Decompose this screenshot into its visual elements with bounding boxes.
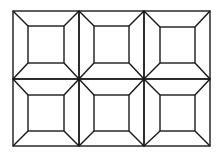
corner-bevel-line xyxy=(79,79,94,95)
corner-bevel-line xyxy=(64,79,79,95)
corner-bevel-line xyxy=(79,131,94,146)
cell-inner-square xyxy=(94,95,129,131)
corner-bevel-line xyxy=(144,131,160,146)
cell-inner-square xyxy=(160,27,195,63)
corner-bevel-line xyxy=(195,131,210,146)
corner-bevel-line xyxy=(64,63,79,79)
corner-bevel-line xyxy=(13,131,28,146)
corner-bevel-line xyxy=(64,11,79,26)
corner-bevel-line xyxy=(64,131,79,146)
cell-inner-square xyxy=(28,26,64,63)
corner-bevel-line xyxy=(195,63,210,79)
corner-bevel-line xyxy=(129,79,144,95)
corner-bevel-line xyxy=(129,131,144,146)
corner-bevel-line xyxy=(195,79,210,95)
corner-bevel-line xyxy=(144,79,160,95)
corner-bevel-line xyxy=(129,63,144,79)
corner-bevel-line xyxy=(13,79,28,95)
corner-bevel-line xyxy=(144,11,160,27)
corner-bevel-line xyxy=(129,11,144,26)
cell-inner-square xyxy=(160,95,195,131)
corner-bevel-line xyxy=(79,63,94,79)
cell-inner-square xyxy=(28,95,64,131)
tiled-squares-figure xyxy=(0,0,222,156)
corner-bevel-line xyxy=(79,11,94,26)
corner-bevel-line xyxy=(13,63,28,79)
corner-bevel-line xyxy=(195,11,210,27)
corner-bevel-line xyxy=(13,11,28,26)
corner-bevel-line xyxy=(144,63,160,79)
cell-inner-square xyxy=(94,26,129,63)
